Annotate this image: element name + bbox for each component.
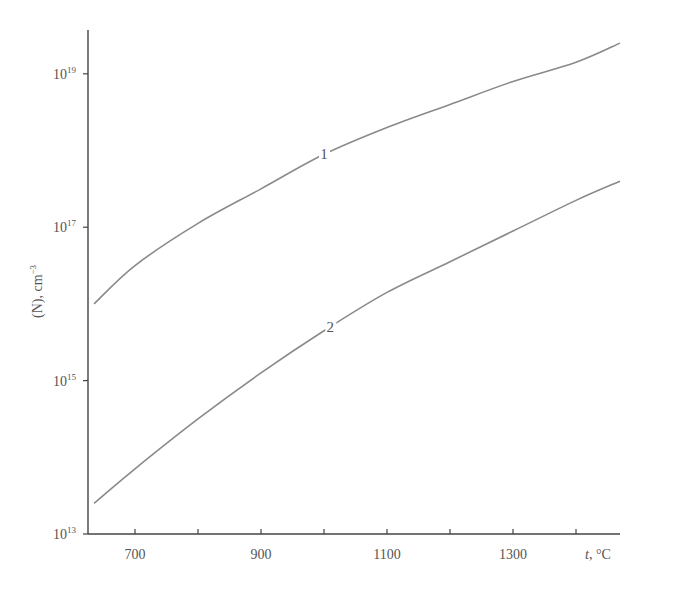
- y-tick-label: 1019: [53, 65, 77, 82]
- x-tick-label: 1100: [373, 547, 400, 562]
- y-axis-title: (N), cm−3: [28, 264, 46, 318]
- x-tick-label: 900: [251, 547, 272, 562]
- y-tick-label: 1015: [53, 372, 77, 389]
- y-tick-label: 1017: [53, 218, 77, 235]
- curve-1: [94, 43, 620, 304]
- y-tick-label: 1013: [53, 525, 77, 542]
- curve-label-2: 2: [327, 319, 335, 335]
- curve-2: [94, 181, 620, 503]
- x-tick-label: 700: [125, 547, 146, 562]
- x-axis-title: t, °C: [585, 547, 611, 562]
- axes: [88, 30, 620, 534]
- curve-label-1: 1: [320, 146, 328, 162]
- curves: 12: [94, 43, 620, 503]
- x-tick-label: 1300: [499, 547, 527, 562]
- chart: 70090011001300 1019101710151013 12 t, °C…: [0, 0, 675, 594]
- y-ticks: 1019101710151013: [53, 65, 88, 542]
